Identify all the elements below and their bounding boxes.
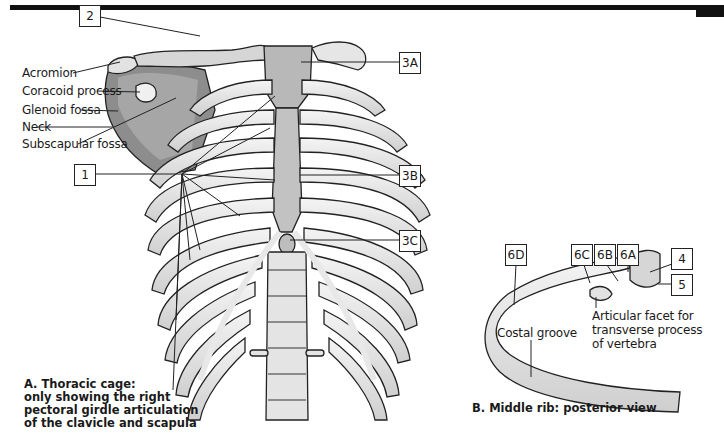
label-acromion: Acromion bbox=[22, 66, 77, 80]
label-subscapular-fossa: Subscapular fossa bbox=[22, 137, 128, 151]
caption-a-line-2: only showing the right bbox=[24, 391, 170, 404]
articular-facet-line-2: transverse process bbox=[592, 323, 702, 337]
label-box-4: 4 bbox=[671, 248, 693, 270]
label-box-6a: 6A bbox=[617, 244, 639, 266]
label-costal-groove: Costal groove bbox=[497, 326, 577, 340]
label-box-3b: 3B bbox=[399, 165, 421, 187]
label-box-3c: 3C bbox=[399, 230, 421, 252]
thoracic-cage bbox=[105, 42, 430, 420]
caption-a-line-3: pectoral girdle articulation bbox=[24, 404, 199, 417]
label-neck: Neck bbox=[22, 120, 51, 134]
label-box-6d: 6D bbox=[505, 244, 527, 266]
label-box-2: 2 bbox=[79, 5, 101, 27]
label-glenoid-fossa: Glenoid fossa bbox=[22, 103, 101, 117]
caption-a-line-4: of the clavicle and scapula bbox=[24, 417, 197, 430]
articular-facet-line-1: Articular facet for bbox=[592, 309, 694, 323]
label-box-3a: 3A bbox=[399, 52, 421, 74]
label-coracoid-process: Coracoid process bbox=[22, 84, 122, 98]
label-box-1: 1 bbox=[74, 164, 96, 186]
caption-a-line-1: A. Thoracic cage: bbox=[24, 378, 136, 391]
label-box-6c: 6C bbox=[571, 244, 593, 266]
label-box-5: 5 bbox=[671, 274, 693, 296]
caption-b: B. Middle rib: posterior view bbox=[472, 402, 657, 415]
label-box-6b: 6B bbox=[594, 244, 616, 266]
articular-facet-line-3: of vertebra bbox=[592, 337, 657, 351]
